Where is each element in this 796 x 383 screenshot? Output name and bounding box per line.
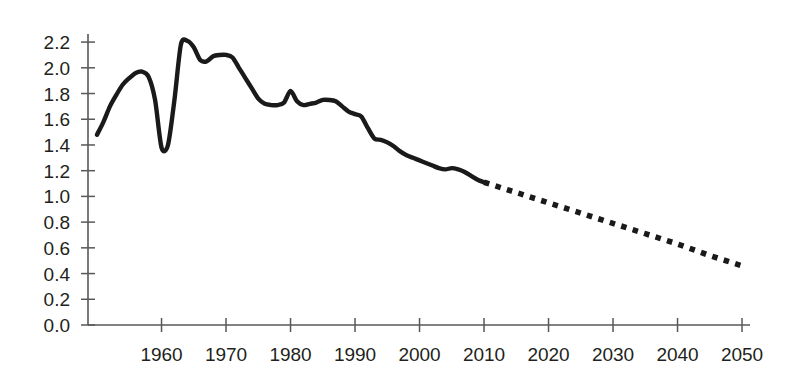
y-tick-label: 2.2 <box>44 32 70 53</box>
y-tick-label: 2.0 <box>44 58 70 79</box>
y-tick-label: 1.0 <box>44 186 70 207</box>
x-tick-label: 2000 <box>398 344 440 365</box>
fertility-rate-line-chart: 0.00.20.40.60.81.01.21.41.61.82.02.2 196… <box>0 0 796 383</box>
x-tick-label: 2030 <box>592 344 634 365</box>
y-tick-label: 0.2 <box>44 289 70 310</box>
y-tick-label: 1.4 <box>44 135 71 156</box>
x-tick-label: 1970 <box>205 344 247 365</box>
x-tick-label: 2010 <box>463 344 505 365</box>
y-tick-label: 0.0 <box>44 315 70 336</box>
x-tick-label: 1960 <box>140 344 182 365</box>
y-tick-label: 0.4 <box>44 264 71 285</box>
y-tick-label: 1.2 <box>44 161 70 182</box>
x-tick-label: 2050 <box>721 344 763 365</box>
y-tick-label: 1.8 <box>44 84 70 105</box>
chart-container: 0.00.20.40.60.81.01.21.41.61.82.02.2 196… <box>0 0 796 383</box>
y-tick-label: 0.6 <box>44 238 70 259</box>
y-tick-label: 0.8 <box>44 212 70 233</box>
x-tick-label: 1980 <box>269 344 311 365</box>
y-tick-label: 1.6 <box>44 109 70 130</box>
x-tick-label: 2020 <box>527 344 569 365</box>
x-tick-label: 1990 <box>334 344 376 365</box>
x-tick-label: 2040 <box>656 344 698 365</box>
